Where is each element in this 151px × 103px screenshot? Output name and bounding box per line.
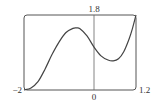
function-graph: 1.8 −2 0 1.2 (0, 0, 151, 103)
x-min-label: −2 (12, 85, 22, 95)
x-zero-label: 0 (92, 92, 97, 102)
y-max-label: 1.8 (88, 4, 100, 14)
plot-frame (24, 15, 136, 90)
function-curve (24, 15, 136, 90)
x-max-label: 1.2 (139, 85, 150, 95)
